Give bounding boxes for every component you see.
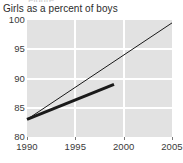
y-tick-label: 85 bbox=[1, 103, 25, 113]
x-tick-mark bbox=[75, 137, 76, 140]
x-tick-label: 2000 bbox=[104, 142, 144, 152]
series-layer bbox=[27, 20, 172, 137]
y-tick-label: 90 bbox=[1, 74, 25, 84]
cropped-header-text: Figure bbox=[28, 0, 148, 2]
plot-area bbox=[27, 20, 172, 137]
x-tick-label: 1990 bbox=[7, 142, 47, 152]
y-tick-label: 100 bbox=[1, 15, 25, 25]
x-tick-mark bbox=[172, 137, 173, 140]
chart-figure: Figure Girls as a percent of boys 808590… bbox=[0, 0, 183, 163]
x-axis: 1990199520002005 bbox=[0, 142, 183, 156]
y-axis: 80859095100 bbox=[0, 0, 25, 163]
series-line-actual-trend bbox=[27, 84, 114, 119]
series-line-projected-trend bbox=[27, 23, 172, 120]
y-tick-label: 95 bbox=[1, 44, 25, 54]
x-tick-mark bbox=[27, 137, 28, 140]
x-tick-mark bbox=[124, 137, 125, 140]
x-tick-label: 2005 bbox=[152, 142, 183, 152]
x-tick-label: 1995 bbox=[55, 142, 95, 152]
